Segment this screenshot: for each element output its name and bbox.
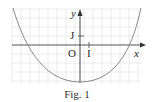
origin-label: O <box>68 48 76 59</box>
function-graph <box>0 0 154 102</box>
unit-x-label: I <box>87 48 91 59</box>
figure-caption: Fig. 1 <box>0 88 154 100</box>
x-axis-label: x <box>134 48 139 59</box>
y-axis-arrow-icon <box>78 9 83 16</box>
grid <box>12 9 141 83</box>
y-axis-label: y <box>71 8 76 19</box>
unit-y-label: J <box>70 30 74 41</box>
x-axis-arrow-icon <box>140 43 146 48</box>
